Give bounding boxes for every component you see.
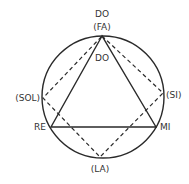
label-la: (LA) bbox=[91, 164, 109, 174]
label-re: RE bbox=[34, 122, 46, 132]
label-si: (SI) bbox=[166, 90, 181, 100]
label-top-do: DO bbox=[95, 9, 109, 19]
label-sol: (SOL) bbox=[15, 93, 40, 103]
solid-triangle bbox=[51, 36, 156, 127]
notes-circle-diagram: DO (FA) DO (SOL) (SI) RE MI (LA) bbox=[0, 0, 189, 184]
label-top-fa: (FA) bbox=[93, 22, 111, 32]
label-inner-do: DO bbox=[95, 53, 109, 63]
label-mi: MI bbox=[160, 122, 170, 132]
